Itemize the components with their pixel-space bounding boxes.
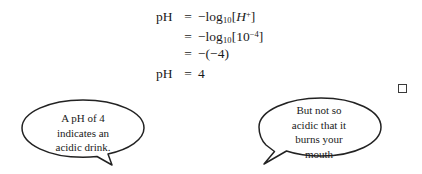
equation-1-relation: =	[180, 7, 196, 27]
equation-4-rhs: 4	[196, 64, 205, 84]
speech-bubble-left: A pH of 4 indicates an acidic drink.	[20, 99, 146, 167]
equation-line-4: pH = 4	[156, 64, 263, 84]
equation-3-rhs: −(−4)	[196, 44, 229, 64]
speech-bubble-left-shape	[20, 99, 146, 167]
speech-bubble-left-outline	[22, 100, 144, 165]
equation-2-neg-log: −log	[198, 29, 223, 44]
equation-1-neg-log: −log	[198, 9, 223, 24]
document-page: pH = −log10[H+] = −log10[10−4] = −(−4) p…	[0, 0, 422, 174]
equation-2-exponent: −4	[250, 29, 259, 39]
ph-equation-block: pH = −log10[H+] = −log10[10−4] = −(−4) p…	[156, 4, 263, 84]
equation-1-bracket-close: ]	[251, 9, 256, 24]
speech-bubble-right: But not so acidic that it burns your mou…	[255, 96, 383, 166]
equation-line-1: pH = −log10[H+]	[156, 4, 263, 24]
equation-2-bracket-open: [10	[232, 29, 250, 44]
equation-3-relation: =	[180, 44, 196, 64]
equation-4-lhs: pH	[156, 64, 180, 84]
equation-1-species: H	[236, 9, 246, 24]
equation-line-2: = −log10[10−4]	[156, 24, 263, 44]
open-square-icon	[398, 84, 407, 93]
equation-4-relation: =	[180, 64, 196, 84]
speech-bubble-right-outline	[259, 98, 381, 164]
speech-bubble-right-shape	[255, 96, 383, 166]
equation-2-bracket-close: ]	[259, 29, 264, 44]
equation-1-lhs: pH	[156, 7, 180, 27]
